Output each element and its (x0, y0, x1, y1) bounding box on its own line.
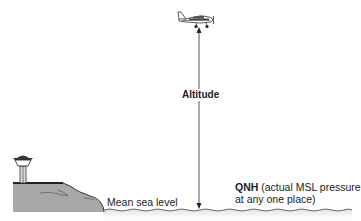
qnh-term: QNH (235, 181, 258, 193)
control-tower-icon (13, 156, 33, 184)
coastal-terrain (13, 183, 104, 212)
qnh-line-2: at any one place) (235, 194, 361, 206)
qnh-line-1: QNH (actual MSL pressure (235, 182, 361, 194)
qnh-definition: (actual MSL pressure (258, 181, 360, 193)
light-aircraft-icon (178, 12, 214, 28)
mean-sea-level-label: Mean sea level (107, 196, 178, 208)
sea-surface (104, 209, 352, 218)
altitude-label: Altitude (181, 89, 220, 101)
qnh-label: QNH (actual MSL pressure at any one plac… (235, 182, 361, 205)
altitude-arrow (197, 27, 202, 209)
